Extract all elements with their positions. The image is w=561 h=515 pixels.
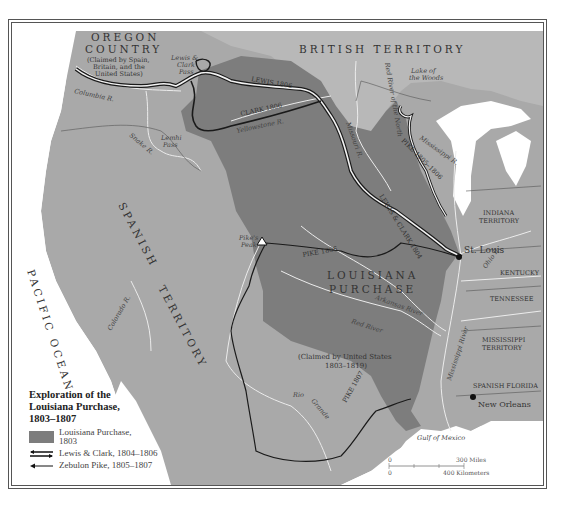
legend-label-louisiana-2: 1803 bbox=[59, 437, 131, 446]
st-louis-marker bbox=[456, 254, 462, 260]
louisiana-label: LOUISIANA bbox=[327, 269, 418, 281]
map-legend: Exploration of the Louisiana Purchase, 1… bbox=[29, 389, 209, 470]
pikes-peak-label-2: Peak bbox=[240, 241, 257, 249]
legend-label-lewis-clark: Lewis & Clark, 1804–1806 bbox=[59, 449, 158, 458]
mississippi-territory-2: TERRITORY bbox=[482, 344, 523, 352]
legend-title: Exploration of the Louisiana Purchase, 1… bbox=[29, 389, 209, 425]
mississippi-territory-1: MISSISSIPPI bbox=[482, 336, 526, 344]
claimed-label-2: 1803–1819) bbox=[325, 362, 367, 370]
oregon-label-5: United States) bbox=[95, 70, 143, 78]
legend-title-line-2: Louisiana Purchase, bbox=[29, 401, 209, 413]
new-orleans-label: New Orleans bbox=[478, 400, 531, 409]
rio-label: Rio bbox=[292, 391, 304, 399]
legend-item-louisiana: Louisiana Purchase, 1803 bbox=[29, 428, 209, 446]
arrow-left-icon bbox=[29, 462, 54, 470]
map-frame: OREGON COUNTRY (Claimed by Spain, Britai… bbox=[11, 22, 544, 486]
new-orleans-marker bbox=[470, 394, 476, 400]
legend-title-line-1: Exploration of the bbox=[29, 389, 209, 401]
indiana-label-2: TERRITORY bbox=[479, 217, 520, 225]
legend-title-line-3: 1803–1807 bbox=[29, 413, 209, 425]
lake-woods-2: the Woods bbox=[409, 74, 444, 82]
legend-label-pike: Zebulon Pike, 1805–1807 bbox=[59, 461, 152, 470]
scale-km: 400 Kilometers bbox=[443, 469, 489, 476]
oregon-label-1: OREGON bbox=[91, 31, 159, 43]
double-arrow-icon bbox=[29, 450, 54, 458]
claimed-label-1: (Claimed by United States bbox=[298, 353, 392, 361]
scale-zero-miles: 0 bbox=[388, 456, 392, 463]
gulf-of-mexico-label: Gulf of Mexico bbox=[417, 434, 465, 442]
spanish-florida-label: SPANISH FLORIDA bbox=[473, 382, 538, 390]
oregon-label-2: COUNTRY bbox=[85, 43, 162, 55]
lemhi-pass-2: Pass bbox=[162, 141, 178, 149]
lewis-clark-pass-3: Pass bbox=[178, 68, 194, 76]
purchase-label: PURCHASE bbox=[329, 283, 416, 295]
scale-zero-km: 0 bbox=[388, 469, 392, 476]
scale-miles: 300 Miles bbox=[456, 456, 486, 463]
indiana-label-1: INDIANA bbox=[483, 209, 514, 217]
british-territory-label: BRITISH TERRITORY bbox=[299, 43, 465, 55]
louisiana-swatch-icon bbox=[29, 431, 54, 443]
legend-item-lewis-clark: Lewis & Clark, 1804–1806 bbox=[29, 449, 209, 458]
legend-item-pike: Zebulon Pike, 1805–1807 bbox=[29, 461, 209, 470]
kentucky-label: KENTUCKY bbox=[500, 269, 540, 277]
tennessee-label: TENNESSEE bbox=[490, 295, 534, 303]
